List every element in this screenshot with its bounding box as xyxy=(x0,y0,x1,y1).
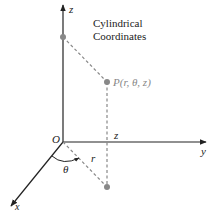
cylindrical-coordinates-diagram: z Cylindrical Coordinates P(r, θ, z) O z… xyxy=(0,0,212,211)
theta-arc xyxy=(52,156,79,162)
y-axis-label: y xyxy=(200,145,206,157)
x-axis-label: x xyxy=(14,201,20,211)
title-line1: Cylindrical xyxy=(93,17,143,29)
origin-label: O xyxy=(52,133,60,145)
dashed-line-origin-to-projection xyxy=(63,142,107,187)
z-axis-label: z xyxy=(68,3,74,15)
title-line2: Coordinates xyxy=(93,30,146,42)
radius-label: r xyxy=(91,152,96,164)
height-z-label: z xyxy=(113,129,119,141)
point-p xyxy=(104,79,110,85)
projection-point xyxy=(104,184,110,190)
dashed-line-z-to-p xyxy=(63,37,107,82)
theta-label: θ xyxy=(63,163,69,175)
point-p-label: P(r, θ, z) xyxy=(112,76,151,89)
z-axis-point xyxy=(60,34,66,40)
x-axis xyxy=(11,142,63,206)
